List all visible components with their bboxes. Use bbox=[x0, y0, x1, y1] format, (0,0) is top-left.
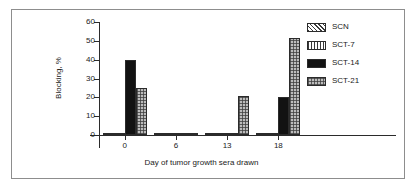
legend-label-sct-7: SCT-7 bbox=[332, 41, 355, 49]
x-axis-line bbox=[90, 135, 396, 136]
y-tick-label: 30 bbox=[86, 75, 95, 83]
bar-scn-day-13 bbox=[205, 133, 216, 135]
legend-label-scn: SCN bbox=[332, 23, 349, 31]
bar-sct-21-day-18 bbox=[289, 38, 300, 135]
x-tick bbox=[278, 135, 279, 140]
bar-scn-day-6 bbox=[154, 133, 165, 135]
bar-sct-7-day-6 bbox=[165, 133, 176, 135]
x-tick-label: 18 bbox=[274, 142, 283, 150]
bar-sct-21-day-0 bbox=[136, 88, 147, 135]
bar-sct-21-day-6 bbox=[187, 133, 198, 135]
bar-sct-21-day-13 bbox=[238, 96, 249, 135]
y-tick-label: 40 bbox=[86, 56, 95, 64]
legend-item-scn: SCN bbox=[307, 18, 399, 36]
bar-sct-7-day-13 bbox=[216, 133, 227, 135]
y-tick-label: 0 bbox=[91, 131, 95, 139]
x-tick bbox=[125, 135, 126, 140]
y-tick-label: 50 bbox=[86, 37, 95, 45]
bar-scn-day-18 bbox=[256, 133, 267, 135]
legend-swatch-sct-14 bbox=[307, 59, 326, 68]
x-tick-label: 13 bbox=[223, 142, 232, 150]
legend-item-sct-7: SCT-7 bbox=[307, 36, 399, 54]
bar-sct-14-day-0 bbox=[125, 60, 136, 135]
bar-sct-7-day-0 bbox=[114, 133, 125, 135]
legend-swatch-scn bbox=[307, 23, 326, 32]
plot-area: 0102030405060 bbox=[99, 22, 304, 135]
x-tick-label: 0 bbox=[122, 142, 126, 150]
legend-label-sct-21: SCT-21 bbox=[332, 77, 359, 85]
x-tick bbox=[227, 135, 228, 140]
y-tick-label: 10 bbox=[86, 112, 95, 120]
legend-item-sct-14: SCT-14 bbox=[307, 54, 399, 72]
bar-sct-7-day-18 bbox=[267, 133, 278, 135]
bar-sct-14-day-6 bbox=[176, 133, 187, 135]
bar-scn-day-0 bbox=[103, 133, 114, 135]
y-tick-label: 20 bbox=[86, 93, 95, 101]
legend-swatch-sct-7 bbox=[307, 41, 326, 50]
bar-sct-14-day-18 bbox=[278, 97, 289, 135]
x-tick bbox=[176, 135, 177, 140]
legend-item-sct-21: SCT-21 bbox=[307, 72, 399, 90]
chart-figure: 0102030405060 Blocking, % Day of tumor g… bbox=[0, 0, 418, 191]
x-tick-label: 6 bbox=[174, 142, 178, 150]
legend: SCN SCT-7 SCT-14 SCT-21 bbox=[307, 18, 399, 90]
y-tick-label: 60 bbox=[86, 18, 95, 26]
y-axis-title: Blocking, % bbox=[54, 57, 63, 99]
legend-label-sct-14: SCT-14 bbox=[332, 59, 359, 67]
legend-swatch-sct-21 bbox=[307, 77, 326, 86]
bar-sct-14-day-13 bbox=[227, 133, 238, 135]
x-axis-title: Day of tumor growth sera drawn bbox=[99, 158, 304, 167]
